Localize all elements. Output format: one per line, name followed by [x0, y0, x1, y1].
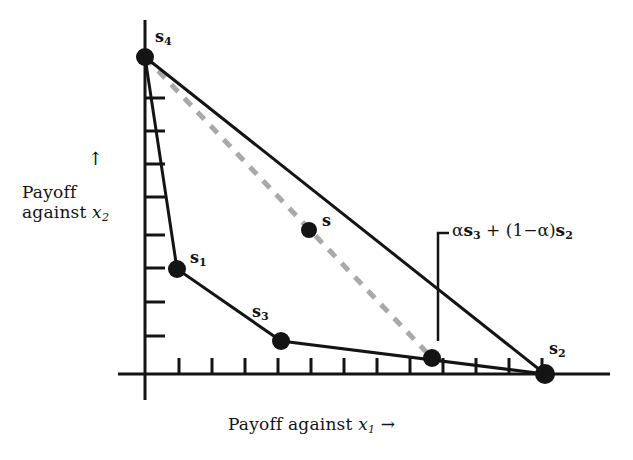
point-marker-s2 [535, 364, 555, 384]
x-axis-label-var: x [358, 414, 368, 434]
point-label-s4-main: s [155, 27, 164, 46]
y-axis-label: Payoff against x2 [22, 182, 109, 222]
point-marker-s1 [168, 260, 186, 278]
point-label-s3-main: s [252, 302, 261, 321]
annotation-s3-sub: 3 [473, 229, 481, 242]
annotation-paren-open: (1− [506, 220, 538, 240]
point-marker-s4 [136, 48, 154, 66]
annotation-plus: + [481, 220, 506, 240]
point-label-s1-main: s [190, 248, 199, 267]
annotation-paren-close: ) [549, 220, 556, 240]
y-axis-label-sub: 2 [102, 211, 109, 224]
point-label-s1: s1 [190, 249, 207, 268]
point-marker-s [301, 222, 317, 238]
point-label-s3-sub: 3 [261, 310, 269, 323]
annotation-s2-var: s [556, 220, 566, 240]
mixture-annotation-label: αs3 + (1−α)s2 [452, 220, 573, 240]
x-axis-arrow-glyph: → [381, 414, 395, 434]
x-axis-label-sub: 1 [368, 423, 375, 436]
x-axis-label-prefix: Payoff against [228, 414, 358, 434]
point-label-s: s [322, 212, 331, 231]
y-axis-label-line1: Payoff [22, 182, 109, 202]
point-label-s2-main: s [549, 339, 558, 358]
y-axis-label-prefix: against [22, 202, 92, 222]
point-label-s4-sub: 4 [164, 35, 172, 48]
point-marker-s3 [272, 332, 290, 350]
annotation-s2-sub: 2 [565, 229, 573, 242]
y-axis-label-line2: against x2 [22, 202, 109, 222]
point-label-s2-sub: 2 [558, 347, 566, 360]
annotation-alpha-1: α [452, 220, 463, 240]
point-label-s1-sub: 1 [199, 256, 207, 269]
annotation-alpha-2: α [537, 220, 548, 240]
x-axis-label: Payoff against x1 → [228, 414, 395, 434]
y-axis-label-var: x [92, 202, 102, 222]
point-label-s2: s2 [549, 340, 566, 359]
annotation-s3-var: s [463, 220, 473, 240]
point-label-s4: s4 [155, 28, 172, 47]
y-axis-arrow-icon: ↑ [88, 148, 103, 169]
point-marker-mixture [423, 349, 441, 367]
point-label-s-main: s [322, 211, 331, 230]
point-label-s3: s3 [252, 303, 269, 322]
